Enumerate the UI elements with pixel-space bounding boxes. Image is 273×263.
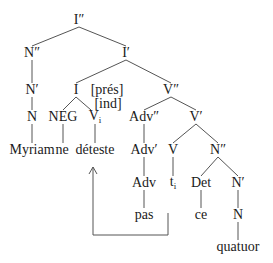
tree-branch — [218, 157, 238, 176]
tree-node-ip: I′ — [122, 46, 130, 60]
tree-branch — [201, 157, 218, 176]
movement-arrow — [93, 167, 168, 235]
tree-node-advpp: Adv″ — [129, 110, 159, 124]
tree-node-np2: N′ — [231, 176, 244, 190]
tree-branch — [173, 124, 196, 143]
tree-node-pas: pas — [135, 208, 154, 222]
tree-node-det: Det — [191, 176, 211, 190]
tree-branch — [76, 60, 126, 83]
tree-node-neg: NEG — [49, 110, 78, 124]
tree-node-vp: V′ — [189, 110, 202, 124]
tree-node-ce: ce — [195, 208, 207, 222]
tree-branch — [32, 27, 79, 46]
tree-node-vpp: V″ — [163, 83, 179, 97]
tree-node-quatuor: quatuor — [217, 240, 260, 254]
tree-node-ipp: I″ — [74, 13, 85, 27]
tree-node-vi: Vi — [89, 109, 102, 125]
tree-node-n1: N — [27, 110, 37, 124]
tree-node-v: V — [168, 143, 178, 157]
tree-branch — [126, 60, 171, 83]
tree-node-npp: N″ — [24, 46, 40, 60]
tree-node-myriam: Myriam — [9, 143, 54, 157]
tree-branch — [196, 124, 218, 143]
tree-node-advp: Adv′ — [130, 143, 157, 157]
tree-node-npp2: N″ — [210, 143, 226, 157]
tree-node-deteste: déteste — [76, 143, 115, 157]
tree-node-np: N′ — [25, 83, 38, 97]
tree-branch — [79, 27, 126, 46]
tree-node-ti: ti — [170, 175, 176, 191]
tree-node-pres: [prés] — [91, 83, 124, 97]
tree-node-ne: ne — [55, 143, 68, 157]
tree-node-n2: N — [233, 208, 243, 222]
tree-branches — [0, 0, 273, 263]
tree-node-i: I — [74, 83, 79, 97]
syntax-tree-diagram: I″N″I′N′I[prés][ind]V″NNEGViAdv″V′Myriam… — [0, 0, 273, 263]
tree-node-adv: Adv — [132, 176, 156, 190]
